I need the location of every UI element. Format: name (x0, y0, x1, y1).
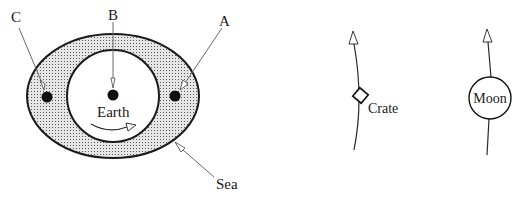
moon-arrowhead-icon (483, 29, 492, 42)
label-earth: Earth (97, 104, 130, 120)
label-crate: Crate (368, 101, 398, 116)
leader-a (180, 28, 222, 90)
moon-figure: Moon (469, 29, 511, 155)
label-c: C (11, 9, 21, 25)
tides-diagram: C B A Earth Sea Crate Moon (0, 0, 522, 200)
label-moon: Moon (473, 91, 506, 106)
moon-trajectory-lower (487, 119, 489, 155)
label-b: B (108, 7, 118, 23)
point-c-dot (42, 92, 53, 103)
crate-figure: Crate (349, 31, 398, 150)
crate-arrowhead-icon (349, 31, 358, 44)
label-sea: Sea (216, 176, 238, 192)
earth-sea-figure: C B A Earth Sea (11, 7, 238, 192)
moon-trajectory-upper (488, 42, 491, 77)
point-b-dot (108, 90, 119, 101)
label-a: A (219, 13, 230, 29)
point-a-dot (170, 91, 181, 102)
leader-sea (175, 142, 214, 177)
crate-box (353, 88, 368, 103)
